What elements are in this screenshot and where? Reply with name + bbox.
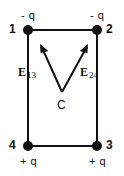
vector-label-e24: E24 <box>80 66 98 80</box>
corner-number-1: 1 <box>9 23 16 35</box>
vector-subscript-e13: 13 <box>26 70 36 80</box>
vector-label-e13: E13 <box>18 66 36 80</box>
corner-number-4: 4 <box>9 139 16 151</box>
physics-figure: - q - q + q + q 1 2 3 4 E13 E24 C <box>0 0 124 176</box>
charge-node-2 <box>92 25 102 35</box>
vector-symbol-e13: E <box>18 65 26 79</box>
corner-number-2: 2 <box>106 23 113 35</box>
charge-label-4: + q <box>20 156 37 167</box>
charge-label-2: - q <box>90 10 104 21</box>
vector-e13 <box>40 44 62 92</box>
vector-symbol-e24: E <box>80 65 88 79</box>
charge-label-1: - q <box>21 10 35 21</box>
center-point-label: C <box>57 99 66 111</box>
charge-node-4 <box>23 141 33 151</box>
charge-label-3: + q <box>89 156 106 167</box>
charge-node-1 <box>23 25 33 35</box>
charge-node-3 <box>92 141 102 151</box>
corner-number-3: 3 <box>106 139 113 151</box>
vector-subscript-e24: 24 <box>88 70 98 80</box>
